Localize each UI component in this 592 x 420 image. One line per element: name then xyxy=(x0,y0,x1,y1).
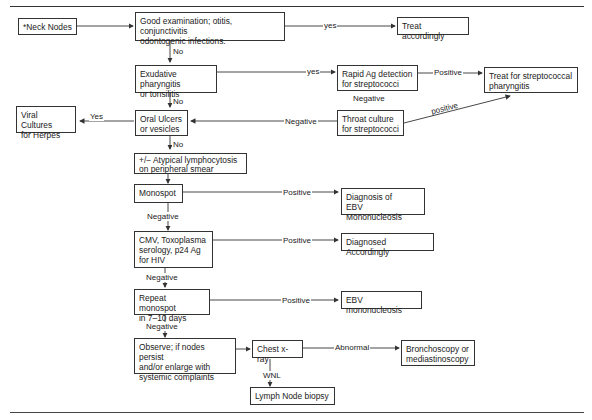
label-positive-cmv: Positive xyxy=(282,236,312,245)
label-no-good-exam: No xyxy=(172,47,184,56)
label-yes-exudative: yes xyxy=(306,67,320,76)
node-exudative-pharyngitis: Exudative pharyngitis or tonsilitis xyxy=(135,65,217,93)
node-monospot: Monospot xyxy=(134,184,183,203)
node-bronchoscopy: Bronchoscopy or mediastinoscopy xyxy=(401,340,475,366)
node-chest-xray: Chest x-ray xyxy=(252,340,303,358)
node-diagnosis-ebv: Diagnosis of EBV Mononucleosis xyxy=(341,188,425,215)
node-diagnosed-accordingly: Diagnosed Accordingly xyxy=(341,233,434,251)
node-ebv-mononucleosis: EBV mononucleosis xyxy=(341,291,422,309)
node-cmv-toxoplasma: CMV, Toxoplasma serology, p24 Ag for HIV xyxy=(134,231,213,268)
label-no-exudative: No xyxy=(172,97,184,106)
label-negative-monospot: Negative xyxy=(146,212,180,221)
label-positive-rapid: Positive xyxy=(433,68,463,77)
label-yes-treat: yes xyxy=(323,21,337,30)
node-throat-culture: Throat culture for streptococci xyxy=(337,110,404,136)
node-observe: Observe; if nodes persist and/or enlarge… xyxy=(134,338,236,374)
node-rapid-ag-detection: Rapid Ag detection for streptococci xyxy=(337,65,418,91)
node-viral-cultures: Viral Cultures for Herpes xyxy=(16,106,76,133)
label-negative-rapid: Negative xyxy=(352,94,386,103)
label-abnormal: Abnormal xyxy=(334,343,370,352)
label-no-oral: No xyxy=(172,140,184,149)
label-wnl: WNL xyxy=(262,371,282,380)
label-yes-herpes: Yes xyxy=(89,112,104,121)
node-atypical-lymphocytosis: +/− Atypical lymphocytosis on peripheral… xyxy=(134,153,247,174)
node-neck-nodes: *Neck Nodes xyxy=(18,18,77,35)
node-good-examination: Good examination; otitis, conjunctivitis… xyxy=(135,12,285,41)
label-negative-throat: Negative xyxy=(284,117,318,126)
label-positive-monospot: Positive xyxy=(282,188,312,197)
node-treat-accordingly: Treat accordingly xyxy=(397,17,469,35)
label-negative-cmv: Negative xyxy=(145,273,179,282)
label-negative-repeat: Negative xyxy=(145,322,179,331)
label-positive-repeat: Positive xyxy=(281,296,311,305)
node-oral-ulcers: Oral Ulcers or vesicles xyxy=(135,110,188,136)
node-treat-streptococcal: Treat for streptococcal pharyngitis xyxy=(484,67,578,93)
node-lymph-node-biopsy: Lymph Node biopsy xyxy=(250,387,335,405)
node-repeat-monospot: Repeat monospot in 7–10 days xyxy=(134,289,210,315)
bottom-rule xyxy=(10,412,584,413)
